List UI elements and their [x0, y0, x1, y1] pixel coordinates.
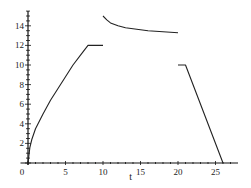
axis-tick-labels: 05101520252468101214 [15, 21, 221, 177]
x-tick-label: 0 [20, 167, 25, 177]
axes [21, 11, 239, 165]
series-segment-1 [28, 45, 103, 163]
x-tick-label: 5 [63, 167, 68, 177]
series-segment-2 [103, 16, 178, 33]
y-tick-label: 2 [20, 138, 25, 148]
x-axis-label: t [129, 171, 132, 182]
y-tick-label: 4 [20, 119, 25, 129]
series-segment-3 [178, 65, 223, 163]
plot-series [28, 16, 223, 163]
y-tick-label: 14 [15, 21, 25, 31]
x-tick-label: 20 [174, 167, 184, 177]
axis-ticks [25, 11, 231, 165]
y-tick-label: 6 [20, 99, 25, 109]
y-tick-label: 10 [15, 60, 25, 70]
y-tick-label: 8 [20, 80, 25, 90]
y-tick-label: 12 [15, 40, 24, 50]
x-tick-label: 15 [136, 167, 146, 177]
chart: 05101520252468101214 t [0, 0, 251, 188]
x-tick-label: 10 [99, 167, 109, 177]
x-tick-label: 25 [211, 167, 221, 177]
